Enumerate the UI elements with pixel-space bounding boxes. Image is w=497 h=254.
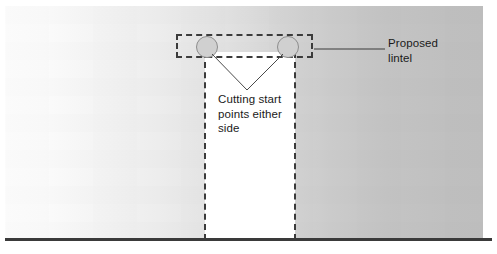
diagram-canvas: Cutting start points either side Propose… bbox=[0, 0, 497, 254]
cutting-start-point-left-circle bbox=[196, 36, 218, 58]
ground-line bbox=[5, 238, 492, 241]
cutting-start-point-right-circle bbox=[277, 36, 299, 58]
new-opening bbox=[205, 52, 295, 240]
label-cutting-start-points: Cutting start points either side bbox=[218, 92, 304, 136]
opening-jamb-right-dashed bbox=[294, 52, 296, 240]
opening-jamb-left-dashed bbox=[204, 52, 206, 240]
label-proposed-lintel: Proposed lintel bbox=[388, 36, 484, 65]
